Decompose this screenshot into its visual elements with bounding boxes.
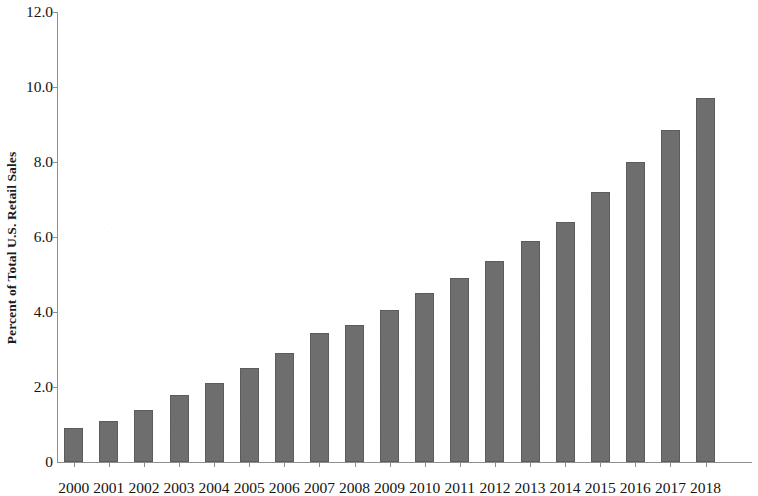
bar-chart: Percent of Total U.S. Retail Sales 12.01… xyxy=(0,0,758,496)
x-axis-tick-mark xyxy=(355,462,356,467)
bar xyxy=(64,428,83,462)
x-axis-tick-mark xyxy=(319,462,320,467)
x-axis-tick-mark xyxy=(600,462,601,467)
bar xyxy=(345,325,364,462)
bar xyxy=(591,192,610,462)
y-axis-tick-label: 0 xyxy=(0,455,53,469)
y-axis-tick-mark xyxy=(53,312,58,313)
y-axis-tick-label: 2.0 xyxy=(0,380,53,394)
bar xyxy=(99,421,118,462)
y-axis-tick-label: 10.0 xyxy=(0,80,53,94)
y-axis-tick-label: 12.0 xyxy=(0,5,53,19)
bar xyxy=(415,293,434,462)
y-axis-tick-mark xyxy=(53,162,58,163)
x-axis-tick-mark xyxy=(670,462,671,467)
bar xyxy=(450,278,469,462)
x-axis-tick-mark xyxy=(109,462,110,467)
bar xyxy=(205,383,224,462)
x-axis-tick-mark xyxy=(495,462,496,467)
x-axis-tick-mark xyxy=(74,462,75,467)
bar xyxy=(240,368,259,462)
x-axis-tick-mark xyxy=(144,462,145,467)
x-axis-tick-mark xyxy=(390,462,391,467)
y-axis-tick-label: 8.0 xyxy=(0,155,53,169)
y-axis-tick-mark xyxy=(53,87,58,88)
x-axis-tick-mark xyxy=(425,462,426,467)
y-axis-tick-label: 4.0 xyxy=(0,305,53,319)
x-axis-tick-mark xyxy=(460,462,461,467)
bar xyxy=(134,410,153,463)
x-axis-tick-mark xyxy=(635,462,636,467)
x-axis-tick-mark xyxy=(565,462,566,467)
bar xyxy=(310,333,329,462)
y-axis-tick-mark xyxy=(53,12,58,13)
bar xyxy=(380,310,399,462)
x-axis-tick-mark xyxy=(179,462,180,467)
x-axis-tick-mark xyxy=(284,462,285,467)
x-axis-tick-mark xyxy=(706,462,707,467)
x-axis-tick-label: 2018 xyxy=(684,478,728,496)
bar xyxy=(661,130,680,462)
y-axis-tick-mark xyxy=(53,387,58,388)
y-axis-tick-label: 6.0 xyxy=(0,230,53,244)
plot-area: 2000200120022003200420052006200720082009… xyxy=(57,12,752,463)
bar xyxy=(485,261,504,462)
y-axis-tick-labels: 12.010.08.06.04.02.00 xyxy=(0,0,53,496)
x-axis-tick-mark xyxy=(249,462,250,467)
bar xyxy=(696,98,715,462)
y-axis-tick-mark xyxy=(53,237,58,238)
bar xyxy=(626,162,645,462)
x-axis-tick-mark xyxy=(214,462,215,467)
x-axis-tick-mark xyxy=(530,462,531,467)
bar xyxy=(556,222,575,462)
bar xyxy=(521,241,540,462)
bar xyxy=(275,353,294,462)
bar xyxy=(170,395,189,463)
